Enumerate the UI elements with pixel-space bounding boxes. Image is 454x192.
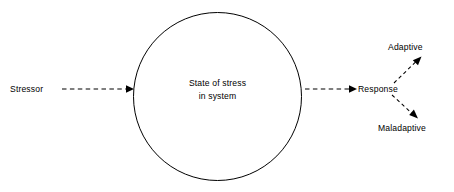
maladaptive-dashed-line (392, 95, 412, 114)
node-label-state-of-stress-line2: in system (199, 91, 237, 101)
stress-response-diagram: Stressor State of stress in system Respo… (0, 0, 454, 192)
connector-state-to-response (305, 85, 357, 93)
connector-stressor-to-state (62, 85, 134, 93)
node-label-response: Response (358, 84, 398, 94)
node-label-adaptive: Adaptive (388, 42, 423, 52)
connector-response-to-maladaptive (392, 95, 418, 119)
node-label-stressor: Stressor (10, 84, 43, 94)
node-label-maladaptive: Maladaptive (378, 123, 426, 133)
stressor-arrowhead-icon (126, 85, 134, 93)
response-arrowhead-icon (349, 85, 357, 93)
connector-response-to-adaptive (394, 57, 422, 84)
maladaptive-arrowhead-icon (409, 110, 418, 119)
diagram-canvas: Stressor State of stress in system Respo… (0, 0, 454, 192)
node-label-state-of-stress-line1: State of stress (189, 78, 246, 88)
adaptive-dashed-line (394, 62, 416, 84)
